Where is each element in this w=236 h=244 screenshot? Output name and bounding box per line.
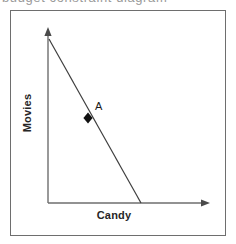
budget-constraint-line <box>49 39 141 203</box>
y-axis-label: Movies <box>21 81 33 145</box>
x-axis <box>48 199 210 206</box>
screenshot-root: budget constraint diagram Movies Candy A <box>0 0 236 244</box>
y-axis-arrow-icon <box>44 27 51 36</box>
y-axis <box>44 27 51 203</box>
budget-constraint-chart <box>11 11 225 235</box>
figure-box: Movies Candy A <box>10 10 226 236</box>
cut-off-header-text-label: budget constraint diagram <box>2 0 167 5</box>
cut-off-header-text: budget constraint diagram <box>0 0 236 9</box>
x-axis-label: Candy <box>59 209 169 221</box>
point-a-label: A <box>95 100 102 112</box>
x-axis-arrow-icon <box>201 199 210 206</box>
